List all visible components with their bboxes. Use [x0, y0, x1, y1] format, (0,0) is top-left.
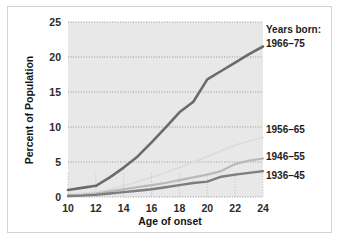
x-tick-label: 10 — [62, 202, 74, 214]
y-tick-label: 15 — [49, 86, 61, 98]
y-tick-label: 25 — [49, 16, 61, 28]
y-axis-tick-labels: 0510152025 — [49, 16, 61, 203]
line-chart: 0510152025 1012141618202224 Percent of P… — [0, 0, 341, 250]
y-tick-label: 20 — [49, 51, 61, 63]
x-tick-label: 18 — [174, 202, 186, 214]
x-tick-label: 14 — [118, 202, 130, 214]
x-tick-label: 20 — [201, 202, 213, 214]
chart-figure: 0510152025 1012141618202224 Percent of P… — [0, 0, 341, 250]
x-axis-title: Age of onset — [138, 215, 202, 227]
x-tick-label: 22 — [229, 202, 241, 214]
y-axis-title: Percent of Population — [23, 56, 35, 165]
series-label: 1946–55 — [266, 151, 305, 162]
x-tick-label: 16 — [146, 202, 158, 214]
plot-area-background — [68, 22, 263, 197]
legend-title: Years born: — [266, 24, 321, 35]
x-axis-tick-labels: 1012141618202224 — [62, 202, 269, 214]
series-label: 1936–45 — [266, 170, 305, 181]
y-tick-label: 5 — [55, 156, 61, 168]
y-tick-label: 0 — [55, 191, 61, 203]
series-labels-group: 1966–751956–651946–551936–45 — [266, 38, 305, 181]
series-label: 1956–65 — [266, 124, 305, 135]
x-tick-label: 24 — [257, 202, 269, 214]
series-label: 1966–75 — [266, 38, 305, 49]
y-tick-label: 10 — [49, 121, 61, 133]
x-tick-label: 12 — [90, 202, 102, 214]
